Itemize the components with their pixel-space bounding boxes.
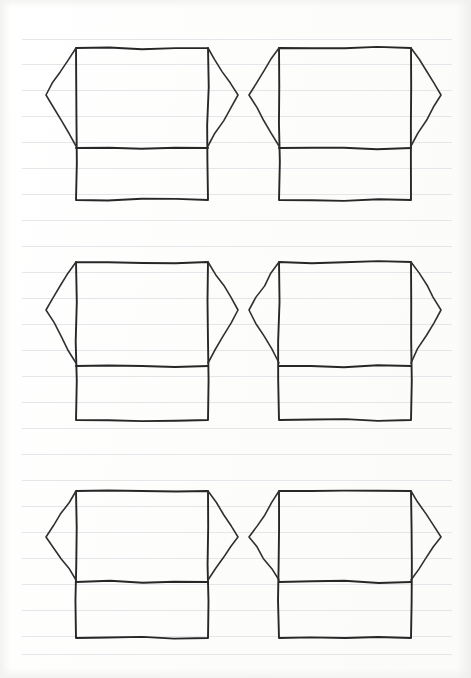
garment-hem-line	[279, 365, 411, 367]
garment-body-rectangle	[278, 491, 412, 638]
garment-left-sleeve	[46, 48, 76, 146]
garment-left-sleeve	[46, 491, 76, 580]
garment-body-rectangle	[75, 491, 208, 639]
garment-body-rectangle	[76, 47, 209, 200]
garment-row3-left	[46, 491, 238, 639]
garment-right-sleeve	[208, 48, 238, 146]
garment-right-sleeve	[208, 262, 238, 363]
garment-row2-left	[46, 262, 238, 421]
garment-body-rectangle	[76, 262, 209, 421]
garment-sketch-canvas	[0, 0, 471, 678]
garment-row3-right	[249, 491, 441, 638]
garment-right-sleeve	[411, 48, 441, 146]
garment-hem-line	[76, 148, 208, 149]
garment-hem-line	[279, 581, 411, 583]
garment-hem-line	[279, 148, 411, 150]
notebook-page	[0, 0, 471, 678]
garment-left-sleeve	[249, 48, 279, 146]
garment-body-rectangle	[278, 261, 412, 421]
garment-left-sleeve	[46, 262, 76, 363]
garment-row1-left	[46, 47, 238, 200]
garment-right-sleeve	[411, 491, 441, 580]
garment-right-sleeve	[208, 491, 238, 580]
garment-row1-right	[249, 47, 441, 201]
garment-left-sleeve	[249, 491, 279, 580]
sketch-layer	[0, 0, 471, 678]
garment-left-sleeve	[249, 262, 279, 363]
garment-hem-line	[76, 365, 208, 367]
garment-body-rectangle	[279, 47, 411, 201]
garment-right-sleeve	[411, 262, 441, 363]
garment-row2-right	[249, 261, 441, 421]
garment-hem-line	[76, 581, 208, 583]
